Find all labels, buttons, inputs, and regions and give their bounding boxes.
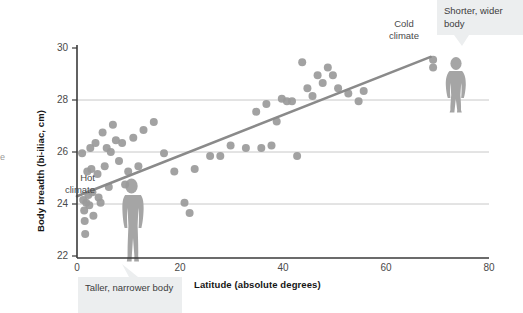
x-tick-label-80: 80 <box>478 262 500 273</box>
x-axis-title: Latitude (absolute degrees) <box>194 279 321 290</box>
y-tick-label-22: 22 <box>46 250 68 261</box>
y-tick-label-28: 28 <box>46 94 68 105</box>
y-tick-label-26: 26 <box>46 146 68 157</box>
cold-climate-label: Cold climate <box>383 18 425 41</box>
pictogram-short-wide-human-silhouette <box>446 57 466 112</box>
y-tick-label-24: 24 <box>46 198 68 209</box>
pictogram-tall-narrow-human-silhouette <box>122 179 143 262</box>
hot-climate-label: Hot climate <box>57 172 95 195</box>
callout-taller-narrower-body: Taller, narrower body <box>78 277 182 313</box>
x-tick-label-20: 20 <box>169 262 191 273</box>
scatter-plot-figure: e <box>0 0 523 313</box>
x-tick-label-60: 60 <box>375 262 397 273</box>
x-tick-label-40: 40 <box>272 262 294 273</box>
x-tick-label-0: 0 <box>66 262 88 273</box>
callout-shorter-wider-body: Shorter, wider body <box>437 0 523 35</box>
y-axis-title: Body breadth (bi-iliac, cm) <box>35 110 46 232</box>
trendline <box>77 57 431 196</box>
y-tick-label-30: 30 <box>46 42 68 53</box>
